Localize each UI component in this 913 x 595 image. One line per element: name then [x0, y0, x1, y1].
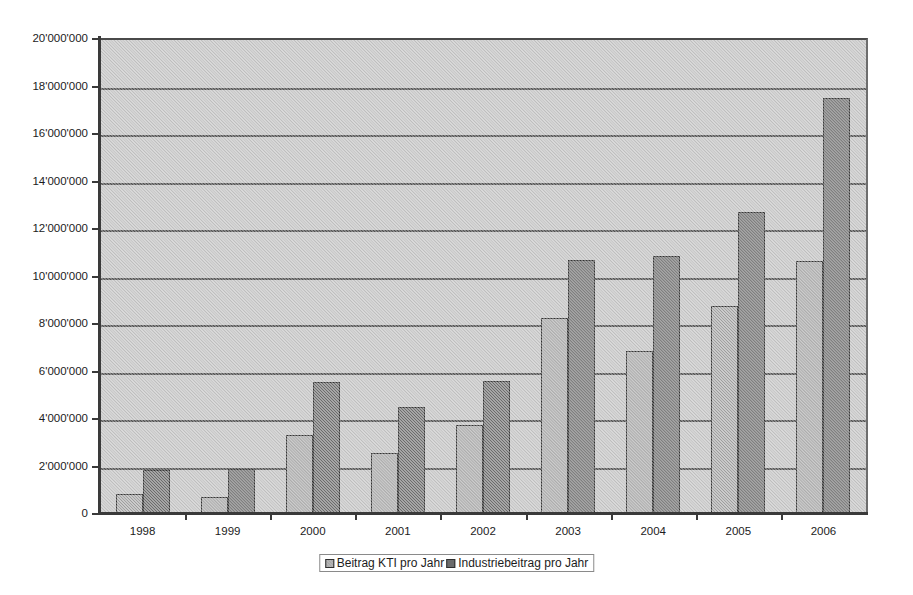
y-axis-tick [92, 323, 100, 325]
y-axis-tick [92, 38, 100, 40]
y-axis-tick [92, 228, 100, 230]
bar-2006-series1 [796, 261, 823, 515]
bar-2003-series2 [568, 260, 595, 515]
x-axis-label-1998: 1998 [100, 524, 186, 538]
x-axis-label-2006: 2006 [780, 524, 866, 538]
x-axis-tick [185, 513, 187, 520]
x-axis-tick [270, 513, 272, 520]
bar-2001-series1 [371, 453, 398, 515]
gridline [100, 183, 866, 185]
y-axis-label: 4'000'000 [2, 412, 88, 424]
x-axis-label-2003: 2003 [525, 524, 611, 538]
legend-label-kti: Beitrag KTI pro Jahr [337, 556, 444, 570]
legend-label-industrie: Industriebeitrag pro Jahr [458, 556, 588, 570]
x-axis-tick [526, 513, 528, 520]
y-axis-label: 20'000'000 [2, 32, 88, 44]
y-axis-tick [92, 466, 100, 468]
bar-2004-series2 [653, 256, 680, 515]
plot-area [100, 38, 868, 515]
x-axis-label-2001: 2001 [355, 524, 441, 538]
y-axis-tick [92, 181, 100, 183]
x-axis-tick [355, 513, 357, 520]
gridline [100, 88, 866, 90]
x-axis-tick [696, 513, 698, 520]
bar-2006-series2 [823, 98, 850, 515]
x-axis-label-2005: 2005 [695, 524, 781, 538]
bar-2005-series1 [711, 306, 738, 515]
x-axis-tick [611, 513, 613, 520]
y-axis-label: 2'000'000 [2, 460, 88, 472]
bar-2005-series2 [738, 212, 765, 515]
bar-2002-series1 [456, 425, 483, 515]
bar-2000-series1 [286, 435, 313, 515]
y-axis-tick [92, 133, 100, 135]
chart-legend: Beitrag KTI pro Jahr Industriebeitrag pr… [319, 554, 594, 572]
bar-2004-series1 [626, 351, 653, 515]
y-axis-label: 0 [2, 507, 88, 519]
y-axis-label: 12'000'000 [2, 222, 88, 234]
x-axis-tick [440, 513, 442, 520]
bar-2000-series2 [313, 382, 340, 515]
x-axis-label-1999: 1999 [185, 524, 271, 538]
y-axis-label: 8'000'000 [2, 317, 88, 329]
y-axis-label: 14'000'000 [2, 175, 88, 187]
y-axis-labels: 02'000'0004'000'0006'000'0008'000'00010'… [0, 0, 88, 595]
y-axis-label: 18'000'000 [2, 80, 88, 92]
bar-1998-series2 [143, 470, 170, 515]
legend-entry-kti: Beitrag KTI pro Jahr [324, 556, 445, 570]
gridline [100, 135, 866, 137]
x-axis-tick [781, 513, 783, 520]
bar-1999-series2 [228, 469, 255, 515]
y-axis-tick [92, 371, 100, 373]
y-axis-label: 16'000'000 [2, 127, 88, 139]
x-axis-label-2002: 2002 [440, 524, 526, 538]
x-axis-label-2000: 2000 [270, 524, 356, 538]
legend-entry-industrie: Industriebeitrag pro Jahr [445, 556, 589, 570]
bar-2002-series2 [483, 381, 510, 515]
y-axis-label: 10'000'000 [2, 270, 88, 282]
y-axis-label: 6'000'000 [2, 365, 88, 377]
legend-swatch-icon-kti [325, 559, 334, 568]
y-axis-tick [92, 513, 100, 515]
y-axis-tick [92, 86, 100, 88]
x-axis-line [98, 512, 868, 515]
legend-swatch-icon-industrie [446, 559, 455, 568]
y-axis-tick [92, 276, 100, 278]
bar-2003-series1 [541, 318, 568, 515]
x-axis-label-2004: 2004 [610, 524, 696, 538]
bar-chart: 02'000'0004'000'0006'000'0008'000'00010'… [0, 0, 913, 595]
bar-2001-series2 [398, 407, 425, 515]
y-axis-tick [92, 418, 100, 420]
